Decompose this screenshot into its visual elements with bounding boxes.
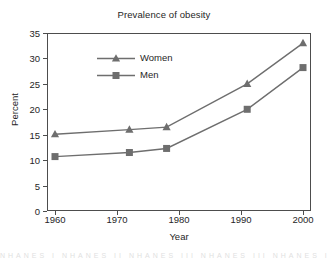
x-axis-tick-label: 1990 (221, 214, 261, 225)
x-axis-tick-label: 1960 (35, 214, 75, 225)
legend-label: Men (140, 69, 158, 80)
y-axis-tick-mark (43, 33, 47, 34)
legend-item-women[interactable]: Women (96, 50, 188, 67)
obesity-prevalence-line-chart: Prevalence of obesity 05101520253035 196… (0, 0, 328, 262)
x-axis-tick-label: 2000 (283, 214, 323, 225)
y-axis-tick-label: 30 (14, 53, 40, 64)
y-axis-tick-label: 5 (14, 180, 40, 191)
x-axis-label: Year (47, 231, 311, 242)
data-point-marker-men (126, 149, 133, 156)
clipped-footer-label: NHANES I NHANES II NHANES III NHANES III… (0, 252, 328, 259)
y-axis-tick-mark (43, 109, 47, 110)
x-axis-tick-label: 1980 (159, 214, 199, 225)
y-axis-tick-label: 10 (14, 155, 40, 166)
legend-marker-square-icon (96, 67, 136, 84)
y-axis-tick-mark (43, 135, 47, 136)
legend-label: Women (140, 52, 173, 63)
legend-item-men[interactable]: Men (96, 67, 188, 84)
y-axis-tick-mark (43, 211, 47, 212)
data-point-marker-women (299, 39, 307, 46)
page-title: Prevalence of obesity (0, 9, 328, 20)
y-axis-tick-mark (43, 58, 47, 59)
data-point-marker-men (163, 145, 170, 152)
data-point-marker-men (52, 153, 59, 160)
x-axis-tick-label: 1970 (97, 214, 137, 225)
legend-marker-triangle-icon (96, 50, 136, 67)
y-axis-tick-mark (43, 186, 47, 187)
y-axis-tick-label: 35 (14, 28, 40, 39)
clipped-footer-text: NHANES I NHANES II NHANES III NHANES III… (0, 252, 328, 262)
data-point-marker-men (300, 64, 307, 71)
legend: WomenMen (96, 50, 188, 84)
y-axis-tick-mark (43, 84, 47, 85)
data-point-marker-women (163, 123, 171, 130)
y-axis-tick-mark (43, 160, 47, 161)
data-point-marker-men (244, 106, 251, 113)
legend-square-icon (113, 72, 120, 79)
data-point-marker-women (243, 80, 251, 87)
y-axis-label: Percent (9, 80, 20, 140)
